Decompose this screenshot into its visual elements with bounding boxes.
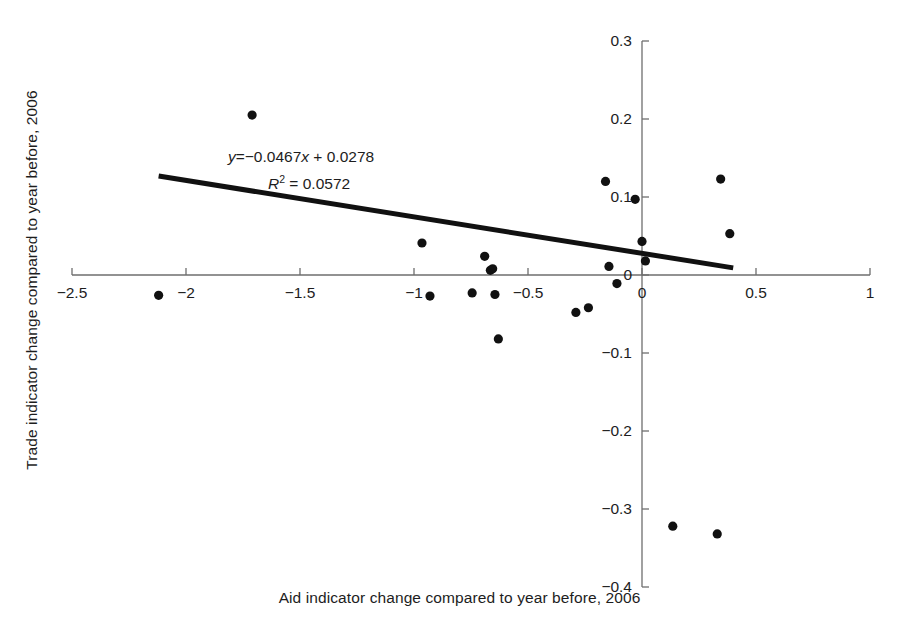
- data-points-group: [154, 111, 734, 539]
- data-point: [668, 522, 677, 531]
- y-axis-title-container: Trade indicator change compared to year …: [0, 0, 46, 560]
- y-axis-ticks: [642, 41, 649, 587]
- data-point: [494, 334, 503, 343]
- data-point: [641, 256, 650, 265]
- x-tick-label: 0.5: [745, 284, 767, 302]
- x-tick-label: −0.5: [513, 284, 544, 302]
- r-equals: =: [289, 175, 298, 192]
- y-tick-label: 0.2: [570, 110, 632, 128]
- x-axis-title: Aid indicator change compared to year be…: [0, 589, 919, 607]
- y-tick-label: 0.1: [570, 188, 632, 206]
- scatter-chart-figure: −2.5−2−1.5−1−0.500.51 −0.4−0.3−0.2−0.100…: [0, 0, 919, 626]
- data-point: [490, 290, 499, 299]
- equation-intercept: 0.0278: [327, 148, 374, 165]
- data-point: [248, 111, 257, 120]
- y-tick-label: 0: [570, 266, 632, 284]
- x-axis-ticks: [72, 268, 870, 275]
- y-tick-label: −0.3: [570, 500, 632, 518]
- x-tick-label: −1: [405, 284, 423, 302]
- x-tick-label: 0: [638, 284, 647, 302]
- y-tick-label: −0.1: [570, 344, 632, 362]
- data-point: [488, 264, 497, 273]
- x-tick-label: −2.5: [57, 284, 88, 302]
- data-point: [713, 529, 722, 538]
- r-symbol: R: [268, 175, 279, 192]
- data-point: [601, 177, 610, 186]
- data-point: [480, 252, 489, 261]
- regression-equation: y=−0.0467x + 0.0278: [228, 148, 374, 166]
- equation-x-var: x: [301, 148, 309, 165]
- x-tick-label: 1: [866, 284, 875, 302]
- plot-canvas: [0, 0, 919, 626]
- y-axis-title: Trade indicator change compared to year …: [23, 20, 41, 540]
- equation-y-var: y: [228, 148, 236, 165]
- r-value: 0.0572: [303, 175, 350, 192]
- equation-equals: =: [236, 148, 245, 165]
- y-tick-label: −0.2: [570, 422, 632, 440]
- axes-group: [72, 41, 870, 587]
- data-point: [417, 238, 426, 247]
- data-point: [725, 229, 734, 238]
- data-point: [468, 288, 477, 297]
- equation-slope: −0.0467: [245, 148, 301, 165]
- trendline: [159, 176, 734, 268]
- equation-plus: +: [313, 148, 322, 165]
- x-tick-label: −2: [177, 284, 195, 302]
- data-point: [154, 291, 163, 300]
- data-point: [637, 237, 646, 246]
- data-point: [584, 303, 593, 312]
- r-exponent: 2: [279, 173, 285, 185]
- data-point: [716, 174, 725, 183]
- y-tick-label: 0.3: [570, 32, 632, 50]
- data-point: [571, 308, 580, 317]
- trendline-segment: [159, 176, 734, 268]
- data-point: [425, 291, 434, 300]
- x-tick-label: −1.5: [285, 284, 316, 302]
- r-squared-annotation: R2 = 0.0572: [268, 173, 350, 193]
